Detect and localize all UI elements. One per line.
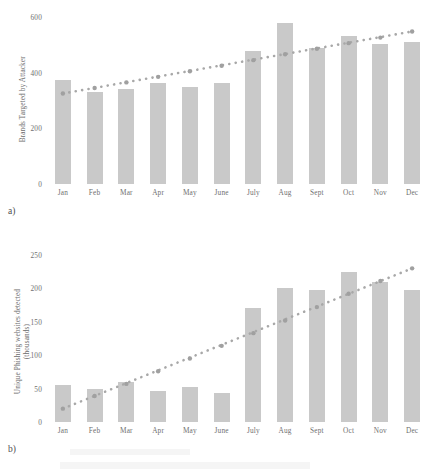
chart-b-plot-area: [47, 255, 428, 422]
x-tick-nov: Nov: [374, 188, 387, 197]
chart-a-trendline-marker: [315, 47, 319, 51]
chart-b-y-tick-labels: 050100150200250: [0, 238, 42, 443]
chart-b-y-tick: 100: [2, 351, 42, 360]
x-tick-aug: Aug: [279, 188, 292, 197]
x-tick-feb: Feb: [89, 188, 101, 197]
panel-b-label: b): [8, 444, 16, 454]
chart-b-trendline-marker: [378, 279, 382, 283]
figure-panel-a: Brands Targeted by Attacker 0200400600 J…: [0, 0, 433, 238]
chart-a-trendline-marker: [410, 29, 414, 33]
chart-a-trendline-marker: [346, 41, 350, 45]
x-tick-oct: Oct: [343, 188, 354, 197]
x-tick-feb: Feb: [89, 426, 101, 435]
x-tick-july: July: [247, 426, 260, 435]
chart-b-trendline-marker: [346, 292, 350, 296]
x-tick-jan: Jan: [58, 188, 68, 197]
chart-a-trendline-marker: [61, 91, 65, 95]
chart-a-trendline-marker: [378, 35, 382, 39]
x-tick-mar: Mar: [120, 188, 133, 197]
chart-a-plot: Brands Targeted by Attacker 0200400600 J…: [0, 0, 433, 205]
chart-b-y-tick: 200: [2, 284, 42, 293]
x-tick-aug: Aug: [279, 426, 292, 435]
x-tick-may: May: [183, 188, 197, 197]
chart-a-trendline-marker: [283, 52, 287, 56]
x-tick-dec: Dec: [406, 188, 418, 197]
x-tick-june: June: [215, 188, 229, 197]
chart-b-trendline-marker: [283, 318, 287, 322]
x-tick-jan: Jan: [58, 426, 68, 435]
chart-b-plot: Unique Phishing websites detected (thous…: [0, 238, 433, 443]
x-tick-mar: Mar: [120, 426, 133, 435]
scan-artifact-2: [70, 449, 190, 455]
chart-b-trendline-marker: [315, 305, 319, 309]
chart-a-trendline-marker: [92, 86, 96, 90]
chart-a-trendline-marker: [251, 58, 255, 62]
chart-b-trendline-marker: [124, 382, 128, 386]
chart-a-trendline-marker: [156, 75, 160, 79]
chart-b-trendline-marker: [61, 406, 65, 410]
x-tick-may: May: [183, 426, 197, 435]
chart-a-trendline: [47, 17, 428, 184]
chart-a-plot-area: [47, 17, 428, 184]
chart-b-y-tick: 250: [2, 251, 42, 260]
chart-b-trendline: [47, 255, 428, 422]
chart-b-trendline-marker: [251, 331, 255, 335]
x-tick-june: June: [215, 426, 229, 435]
x-tick-dec: Dec: [406, 426, 418, 435]
chart-a-trendline-marker: [188, 69, 192, 73]
chart-b-y-tick: 0: [2, 418, 42, 427]
x-tick-apr: Apr: [152, 426, 164, 435]
chart-b-trendline-marker: [219, 344, 223, 348]
chart-a-y-tick: 0: [2, 180, 42, 189]
chart-a-trendline-marker: [124, 80, 128, 84]
x-tick-apr: Apr: [152, 188, 164, 197]
chart-a-y-tick: 400: [2, 68, 42, 77]
chart-a-y-tick: 200: [2, 124, 42, 133]
x-tick-sept: Sept: [310, 188, 324, 197]
chart-a-y-tick: 600: [2, 13, 42, 22]
chart-b-trendline-path: [63, 268, 412, 408]
chart-a-trendline-marker: [219, 64, 223, 68]
chart-b-trendline-marker: [92, 394, 96, 398]
scan-artifact-1: [60, 462, 310, 469]
x-tick-sept: Sept: [310, 426, 324, 435]
chart-b-trendline-marker: [156, 369, 160, 373]
x-tick-oct: Oct: [343, 426, 354, 435]
x-tick-july: July: [247, 188, 260, 197]
panel-a-label: a): [8, 206, 15, 216]
chart-b-trendline-marker: [188, 356, 192, 360]
chart-a-y-tick-labels: 0200400600: [0, 0, 42, 205]
chart-b-trendline-marker: [410, 266, 414, 270]
chart-b-y-tick: 150: [2, 317, 42, 326]
chart-b-y-tick: 50: [2, 384, 42, 393]
figure-panel-b: Unique Phishing websites detected (thous…: [0, 238, 433, 475]
chart-a-trendline-path: [63, 31, 412, 93]
x-tick-nov: Nov: [374, 426, 387, 435]
